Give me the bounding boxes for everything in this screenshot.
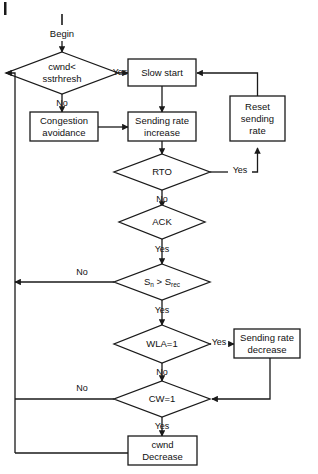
node-cwnd-decrease-line2: Decrease [142, 451, 183, 462]
flowchart-canvas: Begin cwnd< sstrhresh Yes No Slow start … [0, 0, 318, 474]
edge-reset-sending-rate-to-slow-start [197, 73, 258, 96]
node-cwnd-check-line2: sstrhresh [42, 73, 81, 84]
node-sending-rate-decrease-line1: Sending rate [240, 332, 294, 343]
node-sn-srec-mid: > S [154, 276, 171, 287]
flowchart-svg: Begin cwnd< sstrhresh Yes No Slow start … [0, 0, 318, 474]
node-sending-rate-increase-line1: Sending rate [135, 115, 189, 126]
node-cw-label: CW=1 [149, 393, 176, 404]
node-sending-rate-decrease-line2: decrease [247, 344, 286, 355]
start-label: Begin [50, 28, 74, 39]
node-sending-rate-increase-line2: increase [144, 127, 180, 138]
node-reset-sending-rate-line2: sending [241, 113, 274, 124]
edge-label-cw-no: No [76, 383, 88, 393]
node-sn-srec-sub2: rec [171, 280, 181, 287]
edge-label-wla-yes: Yes [212, 337, 227, 347]
node-wla-label: WLA=1 [146, 338, 177, 349]
node-congestion-avoidance-line2: avoidance [42, 127, 85, 138]
scan-artifact-mark [4, 2, 7, 15]
node-cwnd-decrease-line1: cwnd [151, 439, 173, 450]
node-reset-sending-rate-line3: rate [249, 125, 265, 136]
node-ack-label: ACK [152, 216, 172, 227]
node-rto-label: RTO [152, 166, 172, 177]
node-congestion-avoidance-line1: Congestion [40, 115, 88, 126]
edge-label-sn-no: No [76, 267, 88, 277]
edge-label-rto-yes: Yes [233, 165, 248, 175]
node-reset-sending-rate-line1: Reset [245, 101, 270, 112]
edge-rto-yes-to-reset-sending-rate [252, 148, 258, 172]
node-slow-start-label: Slow start [141, 67, 183, 78]
feedback-rail-to-cwnd-check [6, 73, 15, 453]
node-cwnd-check-line1: cwnd< [48, 61, 76, 72]
edge-sending-rate-decrease-to-cw [212, 358, 270, 399]
